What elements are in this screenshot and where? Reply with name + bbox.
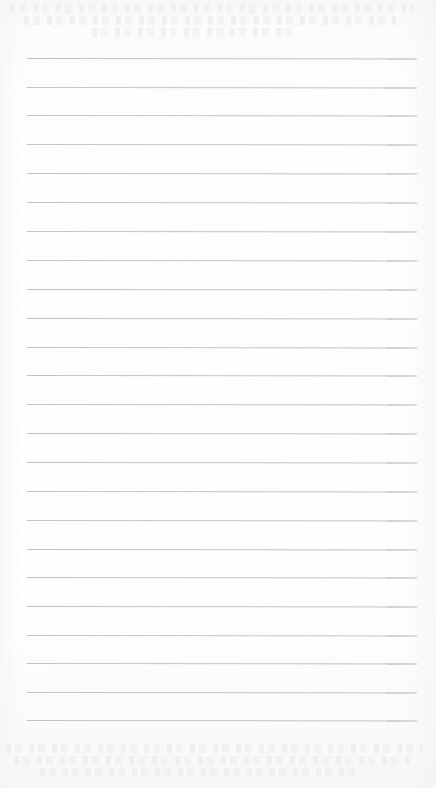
ruled-line [27,289,417,290]
ruled-line [27,115,417,116]
show-through-text-bottom [0,736,436,788]
ruled-line [27,87,417,88]
ruled-line [27,58,417,59]
ruled-line [27,260,417,261]
ruled-line [27,202,417,203]
ruled-line [27,549,417,550]
ruled-line [27,663,417,664]
ruled-line [27,404,417,405]
ruled-line [27,318,417,319]
ruled-line [27,491,417,492]
ruled-line [27,520,417,521]
ruled-line [27,606,417,607]
show-through-text-row [14,756,412,765]
ruled-line [27,433,417,434]
ruled-line [27,635,417,636]
scanned-page [0,0,436,788]
ruled-line [27,375,417,376]
ruled-line [27,462,417,463]
ruled-line [27,144,417,145]
show-through-text-row [40,768,358,777]
ruled-line [27,173,417,174]
ruled-lines-layer [0,0,436,788]
ruled-line [27,692,417,693]
ruled-line [27,347,417,348]
ruled-line [27,720,417,721]
ruled-line [27,231,417,232]
show-through-text-row [6,744,422,753]
ruled-line [27,577,417,578]
